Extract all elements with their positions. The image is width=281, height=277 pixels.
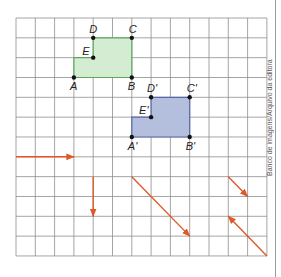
vertex-dot <box>188 135 192 139</box>
vertex-label: D' <box>147 82 158 94</box>
vertex-label: A' <box>127 140 138 152</box>
vertex-dot <box>130 36 134 40</box>
vertex-dot <box>91 55 95 59</box>
vertex-dot <box>149 95 153 99</box>
long-diagonal-arrow <box>132 177 190 236</box>
vertex-dot <box>149 115 153 119</box>
vertex-label: B <box>128 80 135 92</box>
vertex-label: D <box>89 23 97 35</box>
vertex-dot <box>188 95 192 99</box>
vertex-dot <box>130 75 134 79</box>
vertex-label: C <box>129 23 137 35</box>
vertex-label: E <box>82 45 90 57</box>
vertex-dot <box>130 135 134 139</box>
vertex-label: B' <box>186 140 196 152</box>
vertex-dot <box>72 75 76 79</box>
translation-diagram: ABCDEA'B'C'D'E' <box>0 0 281 277</box>
vector-arrows <box>16 157 267 256</box>
vertex-label: C' <box>187 82 198 94</box>
vertex-label: E' <box>139 104 149 116</box>
vertex-label: A <box>69 80 77 92</box>
image-credit: Banco de imagens/Arquivo da editora <box>262 18 278 218</box>
short-diagonal-arrow <box>228 177 247 197</box>
vertex-dot <box>91 36 95 40</box>
